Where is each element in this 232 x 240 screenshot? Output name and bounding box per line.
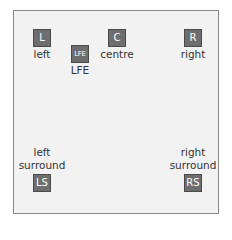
speaker-left-surround-label-line1: left	[18, 146, 66, 159]
speaker-right-surround-label-line2: surround	[168, 159, 218, 172]
speaker-left-surround-box: LS	[33, 174, 51, 192]
speaker-centre-box: C	[108, 29, 126, 47]
speaker-lfe-box: LFE	[71, 45, 89, 63]
speaker-left-label: left	[26, 48, 58, 61]
speaker-right-surround-label-line1: right	[168, 146, 218, 159]
speaker-right-surround-box: RS	[184, 174, 202, 192]
speaker-lfe-label: LFE	[64, 64, 96, 77]
speaker-right-label: right	[176, 48, 210, 61]
speaker-left-surround-label-line2: surround	[18, 159, 66, 172]
speaker-right-box: R	[184, 29, 202, 47]
speaker-left-box: L	[33, 29, 51, 47]
speaker-centre-label: centre	[96, 48, 138, 61]
